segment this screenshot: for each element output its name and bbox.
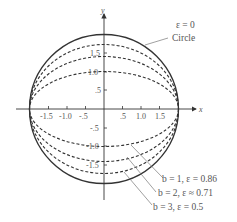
ellipse-b3-label: b = 3, ε = 0.5 [153,202,204,212]
diagram-canvas: x y -1.5 -1.0 -.5 .5 1.0 1.5 1.5 1.0 .5 … [0,0,237,222]
y-tick-label: -1.5 [86,161,99,170]
ellipse-b3-leader-line [124,172,152,205]
y-tick-label: .5 [95,86,101,95]
ellipse-b2-label: b = 2, ε ≈ 0.71 [158,188,213,198]
ellipse-b1-leader-line [131,145,163,178]
ellipse-b1-label: b = 1, ε = 0.86 [162,174,217,184]
x-tick-label: 1.0 [136,112,146,121]
ellipse-eccentricity-diagram: x y -1.5 -1.0 -.5 .5 1.0 1.5 1.5 1.0 .5 … [0,0,237,222]
y-axis-label: y [100,6,105,15]
circle-leader-line [145,38,168,45]
circle-eccentricity-label: ε = 0 [176,20,195,30]
x-tick-label: -1.0 [59,112,72,121]
x-tick-label: .5 [120,112,126,121]
x-axis-label: x [198,105,203,114]
circle-name-label: Circle [172,33,195,43]
x-tick-label: -.5 [79,112,88,121]
x-tick-label: 1.5 [155,112,165,121]
ellipse-b2-leader-line [127,157,156,192]
x-tick-label: -1.5 [40,112,53,121]
y-tick-label: -.5 [90,124,99,133]
